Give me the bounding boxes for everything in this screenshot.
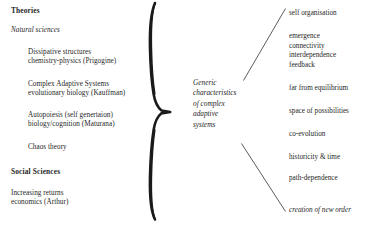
characteristic-group-emergence: emergence connectivity interdependence f…: [289, 32, 336, 70]
characteristic-group-creation-of-new-order: creation of new order: [289, 206, 351, 216]
characteristic-emergence: emergence: [289, 32, 336, 42]
connector-line-lower: [242, 144, 286, 212]
characteristic-group-far-from-equilibrium: far from equilibrium: [289, 84, 348, 94]
characteristic-far-from-equilibrium: far from equilibrium: [289, 84, 348, 94]
theory-entry-increasing-returns: Increasing returns economics (Arthur): [11, 189, 68, 208]
characteristic-historicity-and-time: historicity & time: [289, 153, 340, 163]
characteristic-self-organisation: self organisation: [289, 9, 337, 19]
characteristic-space-of-possibilities: space of possibilities: [289, 107, 349, 117]
characteristic-group-co-evolution: co-evolution: [289, 130, 325, 140]
entry-line-1: Increasing returns: [11, 189, 68, 198]
curly-brace: [143, 0, 179, 225]
entry-line-1: Dissipative structures: [28, 48, 116, 57]
theory-entry-chaos-theory: Chaos theory: [28, 143, 67, 152]
characteristic-creation-of-new-order: creation of new order: [289, 206, 351, 216]
entry-line-1: Autopoiesis (self genertaion): [28, 111, 115, 120]
characteristic-co-evolution: co-evolution: [289, 130, 325, 140]
diagram-canvas: Theories Natural sciences Dissipative st…: [0, 0, 374, 225]
entry-line-1: Complex Adaptive Systems: [28, 80, 125, 89]
center-label-line-3: of complex: [193, 99, 236, 109]
characteristic-feedback: feedback: [289, 61, 336, 71]
curly-brace-icon: [143, 0, 179, 225]
connector-line-upper: [244, 9, 286, 81]
entry-line-2: economics (Arthur): [11, 198, 68, 207]
characteristic-group-path-dependence: path-dependence: [289, 174, 338, 184]
characteristic-group-self-organisation: self organisation: [289, 9, 337, 19]
center-label: Generic characteristics of complex adapt…: [193, 78, 236, 130]
theory-entry-dissipative-structures: Dissipative structures chemistry-physics…: [28, 48, 116, 67]
theory-entry-autopoiesis: Autopoiesis (self genertaion) biology/co…: [28, 111, 115, 130]
characteristic-group-space-of-possibilities: space of possibilities: [289, 107, 349, 117]
characteristic-connectivity: connectivity: [289, 42, 336, 52]
characteristic-group-historicity-and-time: historicity & time: [289, 153, 340, 163]
left-column: Theories Natural sciences Dissipative st…: [0, 0, 148, 225]
characteristic-path-dependence: path-dependence: [289, 174, 338, 184]
center-label-line-2: characteristics: [193, 88, 236, 98]
right-column: self organisation emergence connectivity…: [289, 0, 374, 225]
center-label-line-5: systems: [193, 120, 236, 130]
subheading-natural-sciences: Natural sciences: [11, 26, 60, 35]
center-label-line-4: adaptive: [193, 109, 236, 119]
entry-line-2: biology/cognition (Maturana): [28, 120, 115, 129]
heading-social-sciences: Social Sciences: [11, 167, 60, 176]
center-label-line-1: Generic: [193, 78, 236, 88]
entry-line-2: chemistry-physics (Prigogine): [28, 57, 116, 66]
entry-line-1: Chaos theory: [28, 143, 67, 152]
characteristic-interdependence: interdependence: [289, 51, 336, 61]
theory-entry-complex-adaptive-systems: Complex Adaptive Systems evolutionary bi…: [28, 80, 125, 99]
entry-line-2: evolutionary biology (Kauffman): [28, 89, 125, 98]
heading-theories: Theories: [11, 6, 40, 15]
